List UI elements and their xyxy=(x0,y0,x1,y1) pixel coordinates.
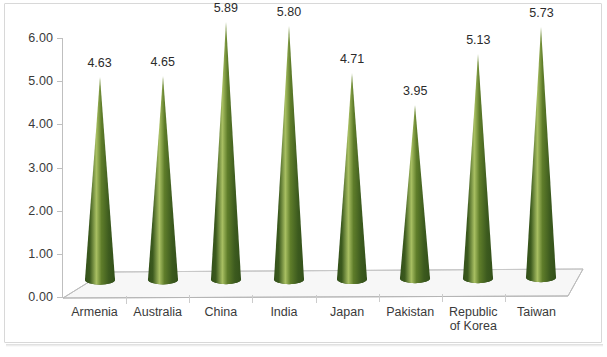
category-axis-tick xyxy=(316,295,317,303)
y-axis-label-1: 1.00 xyxy=(7,247,53,261)
category-axis-tick xyxy=(505,294,506,302)
y-axis-tick xyxy=(57,81,63,82)
cone-bar xyxy=(83,75,117,290)
y-axis-tick xyxy=(57,254,63,255)
cone-bar xyxy=(398,103,432,288)
cone-bar xyxy=(461,52,495,288)
y-axis-tick xyxy=(57,297,63,298)
data-label: 3.95 xyxy=(390,84,440,98)
cone-bar xyxy=(209,20,243,289)
data-label: 4.65 xyxy=(138,55,188,69)
category-axis-tick xyxy=(379,294,380,302)
category-axis-tick xyxy=(442,294,443,302)
data-label: 5.80 xyxy=(264,5,314,19)
data-label: 5.89 xyxy=(201,1,251,15)
y-axis-label-4: 4.00 xyxy=(7,117,53,131)
cone-bar xyxy=(524,25,558,287)
category-label: Taiwan xyxy=(499,305,574,319)
y-axis-tick xyxy=(57,168,63,169)
y-axis-label-6: 6.00 xyxy=(7,31,53,45)
data-label: 5.73 xyxy=(516,6,566,20)
category-axis-tick xyxy=(126,296,127,304)
cone-bar xyxy=(146,74,180,290)
cone-bar xyxy=(272,24,306,289)
cone-bar xyxy=(335,71,369,289)
y-axis-tick xyxy=(57,124,63,125)
category-axis-tick xyxy=(252,295,253,303)
data-label: 5.13 xyxy=(453,33,503,47)
data-label: 4.63 xyxy=(75,56,125,70)
y-axis-label-2: 2.00 xyxy=(7,204,53,218)
y-axis-label-5: 5.00 xyxy=(7,74,53,88)
y-axis-tick xyxy=(57,211,63,212)
chart-container: 6.00 5.00 4.00 3.00 2.00 1.00 0.00 4.634… xyxy=(0,0,607,357)
y-axis-label-0: 0.00 xyxy=(7,290,53,304)
y-axis-label-3: 3.00 xyxy=(7,161,53,175)
category-axis-tick xyxy=(189,295,190,303)
data-label: 4.71 xyxy=(327,52,377,66)
plot-area: 6.00 5.00 4.00 3.00 2.00 1.00 0.00 4.634… xyxy=(0,0,607,357)
y-axis-tick xyxy=(57,38,63,39)
